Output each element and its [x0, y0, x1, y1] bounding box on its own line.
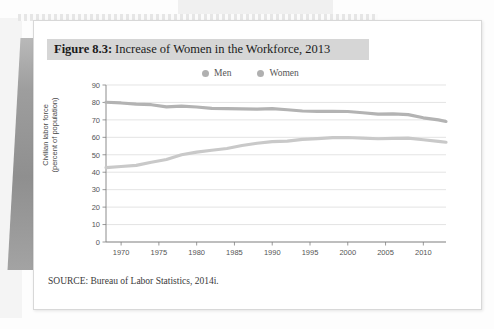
screenshot-root: Figure 8.3: Increase of Women in the Wor… [0, 0, 494, 329]
svg-text:1985: 1985 [226, 248, 243, 257]
svg-text:2000: 2000 [339, 248, 356, 257]
svg-text:10: 10 [92, 220, 100, 229]
source-note: SOURCE: Bureau of Labor Statistics, 2014… [48, 276, 219, 286]
svg-text:0: 0 [96, 238, 100, 247]
svg-text:1995: 1995 [302, 248, 319, 257]
svg-text:60: 60 [92, 133, 100, 142]
svg-text:1980: 1980 [188, 248, 205, 257]
plot-wrapper: Civilian labor force (percent of populat… [34, 21, 481, 309]
svg-text:20: 20 [92, 203, 100, 212]
svg-text:80: 80 [92, 98, 100, 107]
svg-text:90: 90 [92, 81, 100, 90]
svg-text:1970: 1970 [113, 248, 130, 257]
svg-text:70: 70 [92, 116, 100, 125]
svg-text:50: 50 [92, 151, 100, 160]
line-chart-svg: 0102030405060708090 19701975198019851990… [34, 21, 481, 309]
svg-text:1975: 1975 [151, 248, 168, 257]
svg-text:1990: 1990 [264, 248, 281, 257]
svg-text:40: 40 [92, 168, 100, 177]
x-axis-ticks: 197019751980198519901995200020052010 [113, 242, 432, 257]
svg-text:30: 30 [92, 185, 100, 194]
y-axis-ticks: 0102030405060708090 [92, 81, 106, 247]
data-series [106, 102, 446, 167]
svg-text:2010: 2010 [415, 248, 432, 257]
figure-card: Figure 8.3: Increase of Women in the Wor… [33, 20, 482, 310]
svg-text:2005: 2005 [377, 248, 394, 257]
